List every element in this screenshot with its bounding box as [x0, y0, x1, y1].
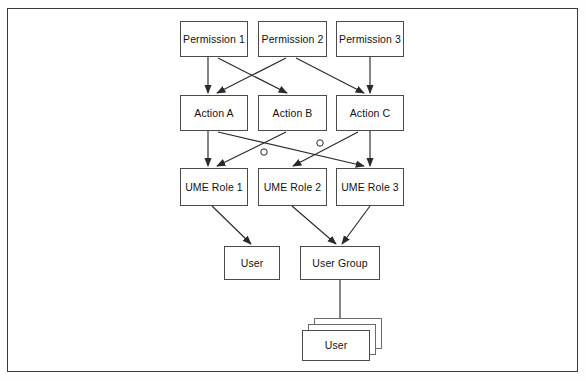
- node-ume-role-1[interactable]: UME Role 1: [180, 168, 248, 206]
- node-user-stack-front[interactable]: User: [302, 330, 370, 361]
- node-action-b[interactable]: Action B: [258, 95, 327, 131]
- node-action-b-label: Action B: [273, 108, 313, 119]
- line-hop-markers: [261, 140, 323, 155]
- node-ume-role-2[interactable]: UME Role 2: [258, 168, 327, 206]
- node-action-a[interactable]: Action A: [180, 95, 248, 131]
- edge-perm2-actionC: [296, 58, 364, 93]
- node-permission-3-label: Permission 3: [339, 34, 401, 45]
- node-permission-3[interactable]: Permission 3: [336, 21, 404, 57]
- node-ume-role-3[interactable]: UME Role 3: [336, 168, 404, 206]
- edge-actionB-role1: [217, 132, 286, 166]
- node-permission-2-label: Permission 2: [262, 34, 324, 45]
- node-ume-role-1-label: UME Role 1: [185, 182, 243, 193]
- node-action-c-label: Action C: [350, 108, 390, 119]
- edge-role1-user: [212, 206, 251, 244]
- node-ume-role-3-label: UME Role 3: [341, 182, 399, 193]
- edge-role2-usergroup: [292, 206, 336, 244]
- node-action-a-label: Action A: [194, 108, 233, 119]
- edge-actionA-role3: [218, 132, 364, 166]
- node-permission-1-label: Permission 1: [183, 34, 245, 45]
- node-permission-1[interactable]: Permission 1: [180, 21, 248, 57]
- edge-actionC-role2: [293, 132, 358, 166]
- node-user-group[interactable]: User Group: [300, 246, 380, 280]
- diagram-canvas: Permission 1 Permission 2 Permission 3 A…: [0, 0, 586, 381]
- node-user-group-label: User Group: [312, 258, 367, 269]
- node-user[interactable]: User: [224, 246, 280, 280]
- edge-role3-usergroup: [342, 206, 370, 244]
- node-permission-2[interactable]: Permission 2: [258, 21, 327, 57]
- node-user-label: User: [241, 258, 264, 269]
- node-action-c[interactable]: Action C: [336, 95, 404, 131]
- node-user-stack-label: User: [325, 340, 348, 351]
- node-ume-role-2-label: UME Role 2: [264, 182, 322, 193]
